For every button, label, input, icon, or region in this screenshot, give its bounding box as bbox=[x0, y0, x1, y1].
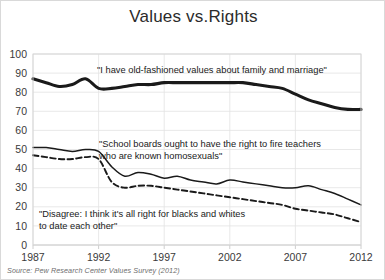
source-note: Source: Pew Research Center Values Surve… bbox=[7, 266, 180, 275]
annotation-school-boards: who are known homosexuals" bbox=[98, 151, 222, 161]
y-tick-label: 30 bbox=[15, 181, 27, 193]
y-tick-label: 70 bbox=[15, 105, 27, 117]
y-tick-label: 0 bbox=[21, 239, 27, 251]
y-tick-label: 80 bbox=[15, 86, 27, 98]
y-tick-label: 60 bbox=[15, 124, 27, 136]
chart-container: Values vs.Rights 0102030405060708090100 … bbox=[0, 0, 385, 280]
y-tick-label: 40 bbox=[15, 162, 27, 174]
x-tick-label: 2007 bbox=[284, 251, 308, 263]
x-axis-labels: 198719921997200220072012 bbox=[21, 251, 373, 263]
y-axis-labels: 0102030405060708090100 bbox=[9, 48, 27, 251]
y-tick-label: 10 bbox=[15, 220, 27, 232]
x-tick-label: 2012 bbox=[349, 251, 373, 263]
y-tick-label: 50 bbox=[15, 143, 27, 155]
x-tick-label: 1997 bbox=[153, 251, 177, 263]
x-tick-label: 1992 bbox=[87, 251, 111, 263]
y-tick-label: 100 bbox=[9, 48, 27, 60]
x-tick-label: 2002 bbox=[218, 251, 242, 263]
line-chart-plot: 0102030405060708090100 19871992199720022… bbox=[1, 1, 385, 280]
annotation-disagree: "Disagree: I think it's all right for bl… bbox=[39, 209, 245, 219]
y-tick-label: 90 bbox=[15, 67, 27, 79]
annotation-values: "I have old-fashioned values about famil… bbox=[97, 65, 327, 75]
annotation-school-boards: "School boards ought to have the right t… bbox=[99, 139, 321, 149]
x-tick-label: 1987 bbox=[21, 251, 45, 263]
x-axis-ticks bbox=[33, 245, 361, 249]
y-tick-label: 20 bbox=[15, 200, 27, 212]
series-line-0 bbox=[33, 79, 361, 110]
annotation-disagree: to date each other" bbox=[39, 221, 117, 231]
